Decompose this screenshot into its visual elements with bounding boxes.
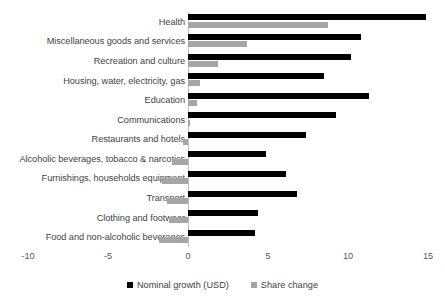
bar-nominal-growth	[188, 171, 286, 177]
bar-share-change	[167, 198, 188, 204]
bar-share-change	[183, 139, 188, 145]
bar-nominal-growth	[188, 73, 324, 79]
legend-swatch-icon	[251, 282, 257, 288]
bar-row	[28, 149, 428, 169]
bar-row	[28, 188, 428, 208]
bar-nominal-growth	[188, 54, 351, 60]
legend-swatch-icon	[127, 282, 133, 288]
bar-share-change	[188, 61, 218, 67]
bar-row	[28, 12, 428, 32]
value-axis-tick: -10	[21, 250, 34, 262]
legend-label: Share change	[261, 280, 318, 291]
legend-item[interactable]: Share change	[251, 280, 318, 291]
bar-nominal-growth	[188, 34, 361, 40]
value-axis-tick: 10	[343, 250, 353, 262]
chart-legend: Nominal growth (USD)Share change	[0, 277, 445, 293]
bar-nominal-growth	[188, 93, 369, 99]
legend-item[interactable]: Nominal growth (USD)	[127, 280, 229, 291]
bar-row	[28, 90, 428, 110]
bar-row	[28, 71, 428, 91]
bar-row	[28, 169, 428, 189]
bar-nominal-growth	[188, 112, 336, 118]
bar-share-change	[188, 100, 197, 106]
bar-nominal-growth	[188, 132, 306, 138]
bar-nominal-growth	[188, 210, 258, 216]
bar-share-change	[188, 120, 190, 126]
bar-row	[28, 110, 428, 130]
value-axis-tick: 15	[423, 250, 433, 262]
bar-row	[28, 130, 428, 150]
bar-nominal-growth	[188, 14, 426, 20]
bar-nominal-growth	[188, 230, 255, 236]
bar-rows	[28, 12, 428, 247]
bar-row	[28, 32, 428, 52]
bar-share-change	[169, 217, 188, 223]
value-axis-tick: -5	[104, 250, 112, 262]
bar-share-change	[159, 237, 188, 243]
bar-nominal-growth	[188, 151, 266, 157]
value-axis: -10-5051015	[28, 250, 428, 266]
plot-area	[28, 12, 428, 247]
bar-share-change	[162, 178, 188, 184]
value-axis-tick: 5	[265, 250, 270, 262]
bar-share-change	[188, 80, 200, 86]
bar-row	[28, 227, 428, 247]
bar-nominal-growth	[188, 191, 297, 197]
bar-share-change	[188, 22, 328, 28]
bar-share-change	[172, 159, 188, 165]
bar-row	[28, 208, 428, 228]
value-axis-tick: 0	[185, 250, 190, 262]
bar-chart: HealthMiscellaneous goods and servicesRe…	[0, 0, 445, 302]
bar-row	[28, 51, 428, 71]
legend-label: Nominal growth (USD)	[137, 280, 229, 291]
bar-share-change	[188, 41, 247, 47]
